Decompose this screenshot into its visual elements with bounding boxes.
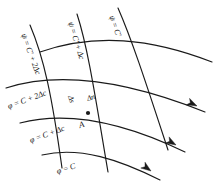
point-a-node xyxy=(86,111,90,115)
potential-lines-group xyxy=(30,8,168,172)
stream-line-phi-top xyxy=(40,40,212,62)
flow-net-figure: ψ = C′ ψ = C′ + Δc ψ = C′ + 2Δc φ = C φ … xyxy=(0,0,215,184)
